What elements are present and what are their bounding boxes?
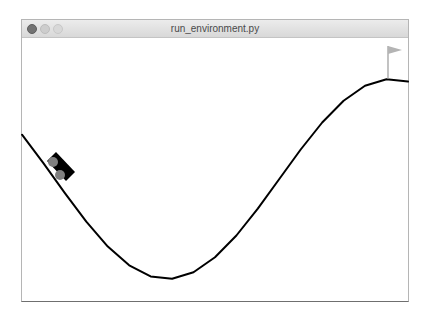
car	[47, 152, 75, 181]
car-wheel-front	[48, 157, 58, 167]
goal-flag-icon	[388, 46, 402, 54]
render-canvas	[0, 0, 432, 319]
car-wheel-rear	[55, 170, 65, 180]
mountain-track	[22, 79, 408, 278]
